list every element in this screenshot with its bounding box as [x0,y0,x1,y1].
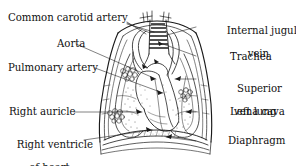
diaphragm [100,130,211,154]
label-trachea: Trachea [230,51,272,62]
label-right-ventricle-line1: Right ventricle [17,139,93,150]
label-superior-vena-cava-line1: Superior [237,83,282,94]
node-cluster-upper-left [121,67,138,82]
superior-vena-cava [166,30,179,75]
label-common-carotid-artery: Common carotid artery [8,12,128,23]
node-cluster-lower-left [108,109,125,124]
label-diaphragm: Diaphragm [228,135,285,146]
label-pulmonary-artery: Pulmonary artery [8,62,98,73]
label-internal-jugular-vein: Internal jugular vein [214,14,290,71]
label-right-ventricle-of-heart: Right ventricle of heart [4,128,82,166]
central-tendon-stipple [144,132,169,136]
anatomy-figure: Common carotid artery Aorta Pulmonary ar… [0,0,296,166]
label-right-auricle: Right auricle [9,106,75,117]
chest-wall-outer [99,21,211,142]
label-internal-jugular-line1: Internal jugular [227,25,296,36]
label-right-ventricle-line2: of heart [29,162,69,166]
chest-wall-third-line [108,40,202,138]
label-left-lung: Left lung [230,106,276,117]
label-aorta: Aorta [57,38,85,49]
node-cluster-right [179,88,193,102]
label-superior-vena-cava: Superior vena cava [216,72,290,129]
